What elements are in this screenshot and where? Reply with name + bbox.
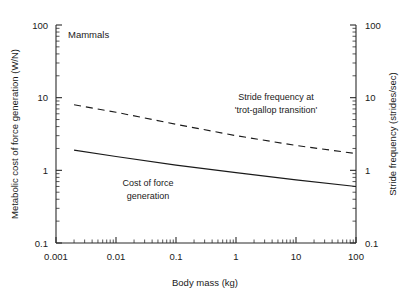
x-tick-label: 100 — [348, 251, 364, 262]
annotation-stride-frequency-line2: 'trot-gallop transition' — [235, 105, 318, 115]
annotation-cost-of-force-line2: generation — [127, 191, 170, 201]
y-left-tick-label: 1 — [43, 165, 48, 176]
y-left-tick-label: 0.1 — [35, 238, 48, 249]
y-left-tick-label: 100 — [32, 20, 48, 31]
x-axis-title: Body mass (kg) — [172, 277, 238, 288]
y-right-tick-label: 0.1 — [365, 238, 378, 249]
y-right-tick-label: 100 — [365, 20, 381, 31]
x-tick-label: 0.001 — [44, 251, 68, 262]
figure-container: 0.0010.010.1110100 1001010.1 1001010.1 B… — [0, 0, 410, 306]
log-log-chart: 0.0010.010.1110100 1001010.1 1001010.1 B… — [0, 0, 410, 306]
y-right-tick-label: 1 — [365, 165, 370, 176]
annotation-cost-of-force-line1: Cost of force — [122, 178, 173, 188]
annotation-stride-frequency-line1: Stride frequency at — [238, 92, 314, 102]
panel-label-mammals: Mammals — [68, 29, 109, 40]
y-right-tick-label: 10 — [365, 92, 376, 103]
x-tick-label: 1 — [233, 251, 238, 262]
x-tick-label: 0.01 — [107, 251, 126, 262]
x-tick-label: 10 — [291, 251, 302, 262]
y-left-axis-title: Metabolic cost of force generation (W/N) — [9, 49, 20, 219]
y-left-tick-label: 10 — [37, 92, 48, 103]
y-right-axis-title: Stride frequency (strides/sec) — [387, 72, 398, 196]
x-tick-label: 0.1 — [169, 251, 182, 262]
